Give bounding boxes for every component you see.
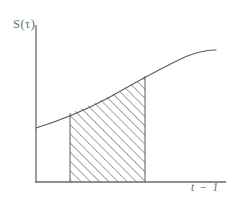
- shaded-area: [66, 70, 150, 186]
- x-axis-label: t − 1: [191, 181, 219, 193]
- y-axis-label: S(τ): [13, 17, 35, 32]
- hatch-fill: [66, 70, 150, 186]
- diagram-canvas: [0, 0, 240, 204]
- figure-container: S(τ) t − 1: [0, 0, 240, 204]
